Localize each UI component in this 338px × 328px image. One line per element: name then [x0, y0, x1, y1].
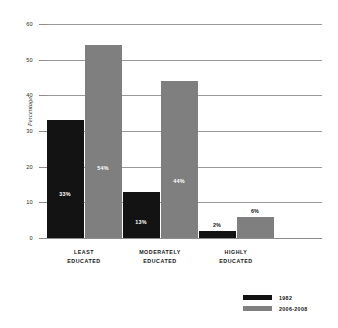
legend-item: 2006-2008 — [243, 303, 335, 314]
y-axis-tick-label: 40 — [1, 92, 33, 98]
y-axis-tick-label: 0 — [1, 235, 33, 241]
bar: 44% — [161, 81, 198, 238]
x-axis-category-line: HIGHLY — [186, 248, 286, 257]
gridline — [47, 24, 322, 25]
x-axis-category-label: HIGHLYEDUCATED — [186, 248, 286, 265]
bar-value-label: 54% — [85, 165, 122, 171]
y-axis-tick-mark — [39, 24, 47, 25]
y-axis-tick-label: 30 — [1, 128, 33, 134]
y-axis-tick-mark — [39, 238, 47, 239]
bar: 54% — [85, 45, 122, 238]
y-axis-title: Percentage — [26, 77, 33, 147]
bar: 13% — [123, 192, 160, 238]
legend-label: 2006-2008 — [279, 306, 307, 312]
y-axis-tick-mark — [39, 60, 47, 61]
bar: 2% — [199, 231, 236, 238]
chart-legend: 1982 2006-2008 — [243, 292, 335, 314]
y-axis-tick-label: 60 — [1, 21, 33, 27]
legend-swatch-1982-icon — [243, 295, 272, 300]
bar-value-label: 44% — [161, 178, 198, 184]
bar-value-label: 6% — [237, 208, 274, 214]
legend-swatch-2006-2008-icon — [243, 306, 272, 311]
bar-value-label: 33% — [47, 191, 84, 197]
y-axis-tick-mark — [39, 95, 47, 96]
bar-value-label: 13% — [123, 219, 160, 225]
bar: 6% — [237, 217, 274, 238]
plot-area: 010203040506033%54%13%44%2%6% — [47, 24, 322, 238]
x-axis-category-line: EDUCATED — [186, 257, 286, 266]
y-axis-tick-label: 50 — [1, 57, 33, 63]
bar: 33% — [47, 120, 84, 238]
bar-value-label: 2% — [199, 222, 236, 228]
y-axis-tick-label: 20 — [1, 164, 33, 170]
bar-chart: Percentage 010203040506033%54%13%44%2%6%… — [0, 0, 338, 328]
legend-label: 1982 — [279, 295, 292, 301]
gridline — [47, 238, 322, 239]
y-axis-tick-label: 10 — [1, 199, 33, 205]
legend-item: 1982 — [243, 292, 335, 303]
